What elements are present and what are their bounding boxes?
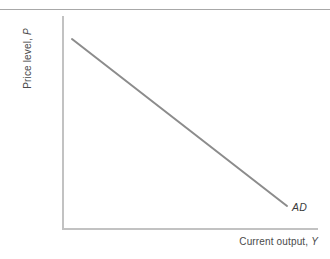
y-axis-label-symbol: P <box>22 28 33 35</box>
x-axis-label-symbol: Y <box>311 236 318 247</box>
curve-layer <box>0 0 330 259</box>
x-axis-label-text: Current output, <box>239 236 308 247</box>
ad-curve-figure: Price level, P Current output, Y AD <box>0 0 330 259</box>
x-axis-label: Current output, Y <box>158 236 318 247</box>
ad-curve-label: AD <box>292 201 307 213</box>
y-axis-label-text: Price level, <box>22 38 33 89</box>
ad-curve-line <box>72 39 287 206</box>
y-axis-label: Price level, P <box>22 4 33 114</box>
